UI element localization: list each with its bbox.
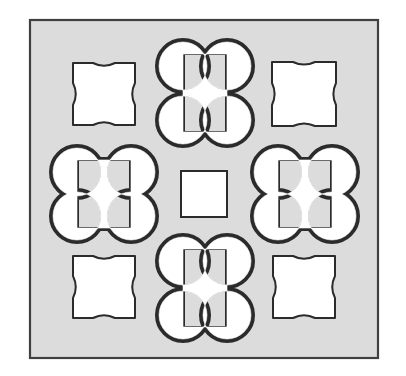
concave-square-top-left: [73, 63, 135, 125]
clover-middle-right: [252, 146, 358, 242]
shape-layer: [51, 40, 358, 341]
clover-middle-left: [51, 146, 157, 242]
pattern-diagram: [0, 0, 406, 376]
concave-square-top-right: [272, 62, 336, 126]
clover-middle-left-interior: [53, 148, 155, 240]
center-square: [181, 171, 227, 217]
concave-square-bottom-right: [273, 256, 335, 318]
concave-square-bottom-left: [73, 256, 135, 318]
figure-root: [0, 0, 406, 376]
clover-middle-right-interior: [254, 148, 356, 240]
